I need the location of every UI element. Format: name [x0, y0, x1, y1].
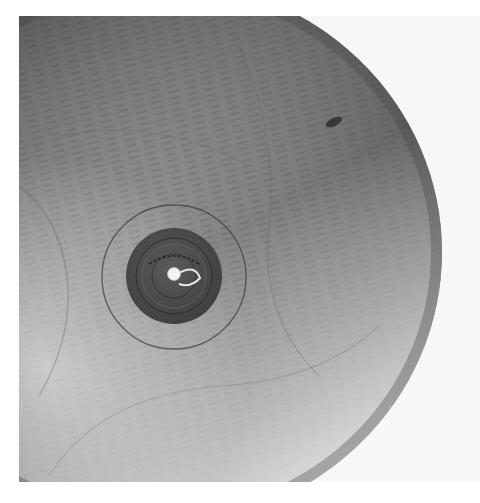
photograph	[19, 16, 480, 482]
bowl	[19, 16, 480, 482]
